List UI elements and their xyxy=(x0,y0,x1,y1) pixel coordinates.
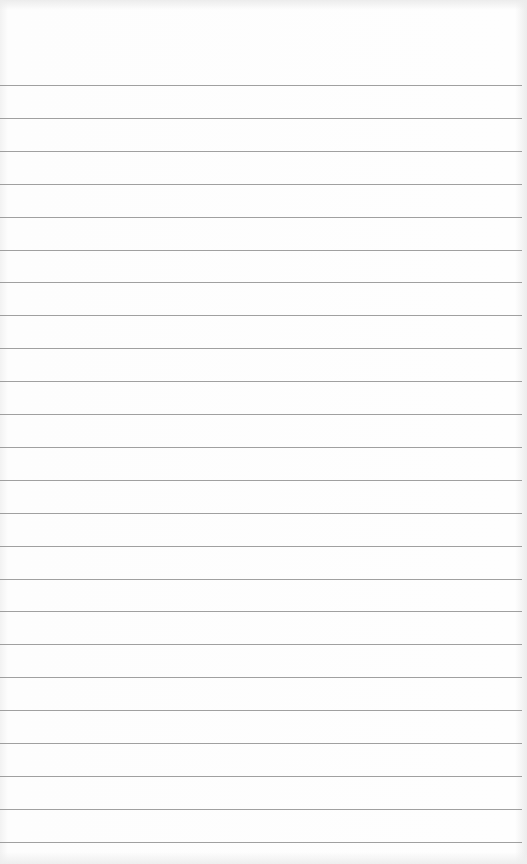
ruled-line xyxy=(0,282,522,283)
ruled-line xyxy=(0,644,522,645)
ruled-line xyxy=(0,381,522,382)
ruled-line xyxy=(0,480,522,481)
ruled-line xyxy=(0,776,522,777)
ruled-line xyxy=(0,513,522,514)
lined-paper-sheet xyxy=(0,0,527,864)
ruled-line xyxy=(0,315,522,316)
ruled-line xyxy=(0,579,522,580)
ruled-line xyxy=(0,743,522,744)
ruled-line xyxy=(0,85,522,86)
ruled-line xyxy=(0,348,522,349)
ruled-line xyxy=(0,250,522,251)
ruled-line xyxy=(0,217,522,218)
ruled-line xyxy=(0,118,522,119)
paper-top-edge xyxy=(0,0,527,10)
ruled-line xyxy=(0,710,522,711)
ruled-line xyxy=(0,809,522,810)
ruled-line xyxy=(0,842,522,843)
ruled-line xyxy=(0,611,522,612)
ruled-line xyxy=(0,151,522,152)
ruled-line xyxy=(0,447,522,448)
paper-bottom-edge xyxy=(0,852,527,864)
ruled-line xyxy=(0,184,522,185)
ruled-line xyxy=(0,677,522,678)
ruled-line xyxy=(0,414,522,415)
ruled-line xyxy=(0,546,522,547)
